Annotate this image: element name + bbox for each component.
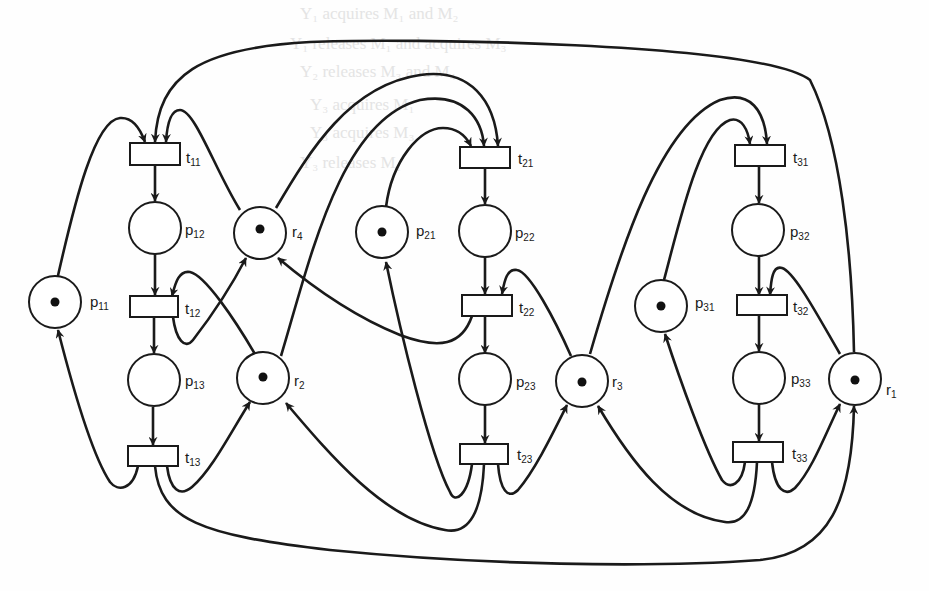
label-p11: p11: [90, 293, 109, 312]
label-p13: p13: [185, 372, 205, 391]
label-r2: r2: [294, 372, 305, 391]
label-t21: t21: [518, 150, 534, 169]
label-p32: p32: [790, 223, 810, 242]
label-p21: p21: [416, 222, 436, 241]
place-p33[interactable]: [733, 352, 785, 404]
label-p23: p23: [516, 373, 536, 392]
place-p13[interactable]: [128, 354, 180, 406]
token-r3: [578, 378, 587, 387]
label-p33: p33: [791, 370, 811, 389]
place-p12[interactable]: [129, 202, 181, 254]
transition-t12[interactable]: [130, 296, 178, 317]
transition-t23[interactable]: [460, 444, 508, 464]
label-r3: r3: [612, 373, 623, 392]
arc-r4-t21: [276, 74, 498, 208]
label-t22: t22: [519, 299, 535, 318]
label-t11: t11: [186, 149, 201, 168]
transition-t32[interactable]: [737, 295, 787, 315]
label-p31: p31: [695, 294, 715, 313]
arc-t13-r1: [155, 406, 854, 564]
place-p23[interactable]: [459, 353, 511, 405]
token-p11: [51, 298, 60, 307]
label-t32: t32: [793, 298, 809, 317]
label-t13: t13: [185, 449, 201, 468]
label-t23: t23: [517, 446, 533, 465]
arc-t12-r4: [173, 258, 246, 344]
transition-t13[interactable]: [128, 446, 178, 466]
label-p22: p22: [515, 224, 535, 243]
token-p31: [657, 302, 666, 311]
arc-t33-r3: [598, 406, 757, 522]
place-p22[interactable]: [459, 205, 511, 257]
label-r1: r1: [886, 381, 897, 400]
arc-t13-p11: [58, 330, 138, 488]
transition-t11[interactable]: [130, 143, 180, 165]
label-t12: t12: [185, 300, 201, 319]
arc-t13-r2: [167, 402, 250, 491]
transition-t22[interactable]: [462, 295, 512, 316]
label-t31: t31: [793, 149, 809, 168]
place-p32[interactable]: [732, 204, 784, 256]
arc-t23-r2: [286, 403, 484, 531]
petri-net-diagram: t11 t12 t13 t21 t22 t23 t31 t32 t33 p11 …: [0, 0, 929, 591]
transition-t33[interactable]: [733, 442, 783, 462]
token-p21: [378, 228, 387, 237]
label-t33: t33: [792, 445, 808, 464]
arc-p21-t21: [386, 128, 471, 207]
label-p12: p12: [185, 221, 205, 240]
token-r4: [256, 225, 265, 234]
transition-t21[interactable]: [460, 147, 510, 168]
token-r2: [259, 373, 268, 382]
arc-p31-t31: [664, 120, 750, 280]
label-r4: r4: [292, 223, 303, 242]
token-r1: [851, 376, 860, 385]
transition-t31[interactable]: [735, 145, 785, 166]
